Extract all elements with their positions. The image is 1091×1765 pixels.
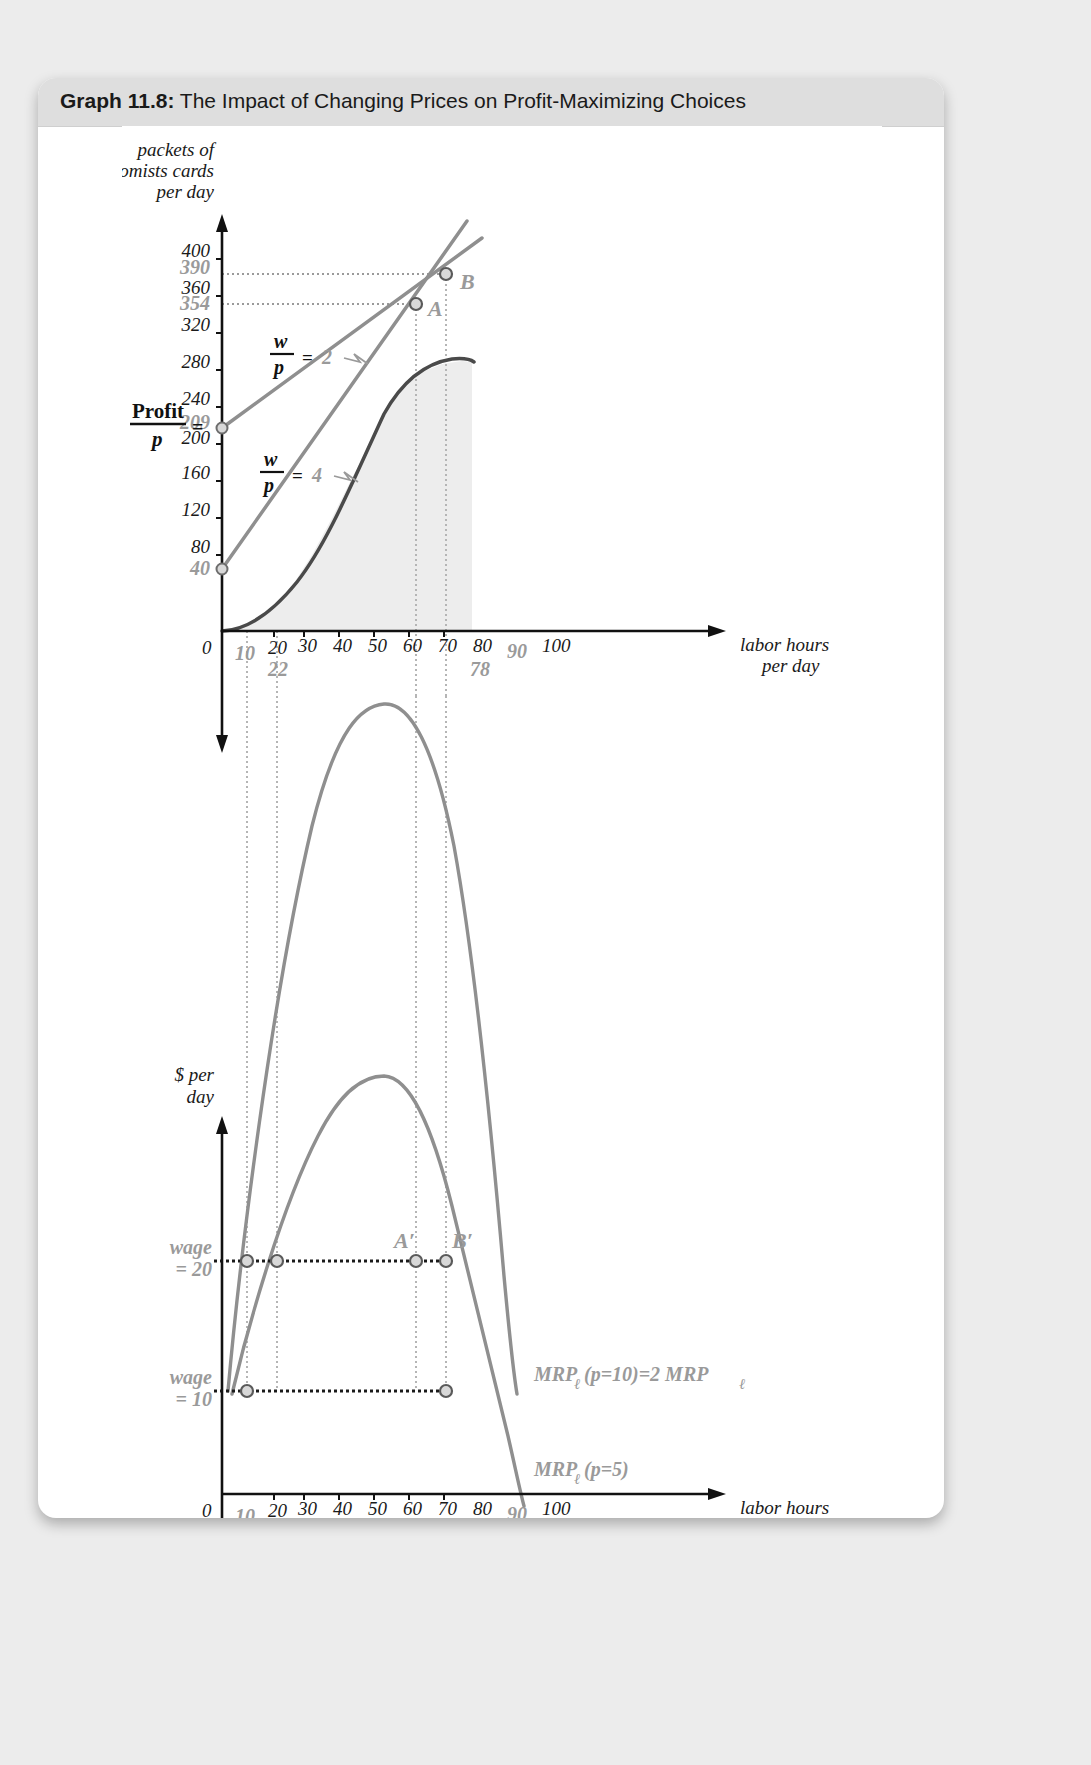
top-y-axis-title-line3: per day bbox=[154, 181, 214, 202]
ylabel-320: 320 bbox=[181, 314, 211, 335]
intercept-marker-40 bbox=[217, 564, 228, 575]
mrp-marker-p5-at-wage20-left bbox=[241, 1255, 253, 1267]
bottom-xlabel-80: 80 bbox=[473, 1498, 493, 1518]
point-marker-B bbox=[440, 268, 452, 280]
ylabel-40: 40 bbox=[189, 557, 210, 579]
bottom-xlabel-20: 20 bbox=[268, 1500, 288, 1518]
mrp-p5-head: MRP bbox=[533, 1458, 578, 1480]
mrp-marker-p10-at-wage20-left bbox=[271, 1255, 283, 1267]
wp2-pointer-arrow bbox=[344, 354, 368, 364]
top-xlabel-70: 70 bbox=[438, 635, 458, 656]
bottom-xlabel-50: 50 bbox=[368, 1498, 388, 1518]
wp4-denominator: p bbox=[262, 474, 274, 497]
wage-20-label-line1: wage bbox=[170, 1236, 212, 1259]
bottom-x-axis-arrow bbox=[708, 1488, 726, 1500]
ylabel-354: 354 bbox=[179, 292, 210, 314]
bottom-xlabel-70: 70 bbox=[438, 1498, 458, 1518]
bottom-xlabel-40: 40 bbox=[333, 1498, 353, 1518]
top-y-axis-title-line2: economists cards bbox=[122, 160, 214, 181]
wp2-equals: = bbox=[302, 347, 313, 368]
top-y-axis-arrow-up bbox=[216, 214, 228, 232]
point-label-B: B bbox=[459, 269, 475, 294]
isoprofit-label-wp4: w p = 4 bbox=[260, 448, 358, 497]
mrp-p10-head: MRP bbox=[533, 1363, 578, 1385]
bottom-xlabel-10: 10 bbox=[235, 1505, 255, 1518]
ylabel-280: 280 bbox=[182, 351, 211, 372]
mrp-marker-at-wage10-right bbox=[440, 1385, 452, 1397]
profit-denominator: p bbox=[150, 427, 163, 451]
bottom-y-axis-arrow bbox=[216, 1116, 228, 1134]
graph-title-text: The Impact of Changing Prices on Profit-… bbox=[174, 89, 746, 112]
top-y-axis-arrow-down bbox=[216, 735, 228, 753]
panel-connector-guides bbox=[247, 696, 446, 1391]
intercept-marker-209 bbox=[217, 423, 228, 434]
curve-label-mrp-p10: MRP ℓ (p=10)=2 MRP ℓ bbox=[533, 1363, 745, 1392]
top-xlabel-50: 50 bbox=[368, 635, 388, 656]
top-xlabel-80: 80 bbox=[473, 635, 493, 656]
point-marker-A-prime bbox=[410, 1255, 422, 1267]
page-background: Graph 11.8: The Impact of Changing Price… bbox=[0, 0, 1091, 1765]
top-xlabel-30: 30 bbox=[297, 635, 318, 656]
wp4-numerator: w bbox=[264, 448, 278, 470]
wp4-equals: = bbox=[292, 465, 303, 486]
point-label-A: A bbox=[426, 296, 443, 321]
mrp-p10-sub: ℓ bbox=[574, 1376, 580, 1392]
point-label-B-prime: B′ bbox=[451, 1228, 473, 1253]
bottom-panel: $ per day labor hours per day wage = 20 … bbox=[170, 704, 829, 1518]
bottom-y-axis-title-line2: day bbox=[187, 1086, 215, 1107]
ylabel-160: 160 bbox=[182, 462, 211, 483]
top-y-axis-title-line1: packets of bbox=[135, 139, 216, 160]
top-xlabel-40: 40 bbox=[333, 635, 353, 656]
ylabel-390: 390 bbox=[179, 256, 210, 278]
mrp-p10-tail: (p=10)=2 MRP bbox=[584, 1363, 709, 1386]
graph-number: Graph 11.8: bbox=[60, 89, 174, 112]
ylabel-80: 80 bbox=[191, 536, 211, 557]
profit-equals: = bbox=[192, 416, 203, 438]
top-panel: packets of economists cards per day labo… bbox=[122, 139, 829, 753]
ylabel-120: 120 bbox=[182, 499, 211, 520]
bottom-xlabel-90: 90 bbox=[507, 1503, 527, 1518]
mrp-curve-p5 bbox=[232, 1076, 524, 1506]
top-xlabel-20: 20 bbox=[268, 637, 288, 658]
figure-card: Graph 11.8: The Impact of Changing Price… bbox=[38, 78, 944, 1518]
bottom-xlabel-0: 0 bbox=[202, 1500, 212, 1518]
bottom-x-axis-title-line1: labor hours bbox=[740, 1497, 829, 1518]
top-xlabel-90: 90 bbox=[507, 640, 527, 662]
bottom-xlabel-100: 100 bbox=[542, 1498, 571, 1518]
bottom-xlabel-30: 30 bbox=[297, 1498, 318, 1518]
wp2-numerator: w bbox=[274, 330, 288, 352]
profit-numerator: Profit bbox=[132, 399, 184, 423]
wp2-value: 2 bbox=[321, 346, 332, 368]
figure-header: Graph 11.8: The Impact of Changing Price… bbox=[38, 78, 944, 127]
top-xlabel-22: 22 bbox=[267, 658, 288, 680]
bottom-y-axis-title-line1: $ per bbox=[174, 1064, 214, 1085]
bottom-xlabel-60: 60 bbox=[403, 1498, 423, 1518]
top-xlabel-78: 78 bbox=[470, 658, 490, 680]
ylabel-240: 240 bbox=[182, 388, 211, 409]
mrp-p5-tail: (p=5) bbox=[584, 1458, 629, 1481]
top-xlabel-60: 60 bbox=[403, 635, 423, 656]
top-x-axis-title-line2: per day bbox=[760, 655, 820, 676]
isoprofit-label-wp2: w p = 2 bbox=[270, 330, 368, 379]
top-x-axis-title-line1: labor hours bbox=[740, 634, 829, 655]
top-xlabel-0: 0 bbox=[202, 637, 212, 658]
point-marker-B-prime bbox=[440, 1255, 452, 1267]
figure-canvas: packets of economists cards per day labo… bbox=[122, 126, 882, 1518]
wage-10-label-line2: = 10 bbox=[176, 1388, 212, 1410]
top-x-axis-arrow bbox=[708, 625, 726, 637]
wp4-value: 4 bbox=[311, 464, 322, 486]
point-marker-A bbox=[410, 298, 422, 310]
mrp-p10-sub2: ℓ bbox=[739, 1376, 745, 1392]
top-xlabel-100: 100 bbox=[542, 635, 571, 656]
wage-20-label-line2: = 20 bbox=[176, 1258, 212, 1280]
wp2-denominator: p bbox=[272, 356, 284, 379]
point-label-A-prime: A′ bbox=[392, 1228, 415, 1253]
mrp-marker-at-wage10-left bbox=[241, 1385, 253, 1397]
curve-label-mrp-p5: MRP ℓ (p=5) bbox=[533, 1458, 629, 1487]
mrp-p5-sub: ℓ bbox=[574, 1471, 580, 1487]
top-xlabel-10: 10 bbox=[235, 642, 255, 664]
page-title: Graph 11.8: The Impact of Changing Price… bbox=[60, 89, 746, 113]
wage-10-label-line1: wage bbox=[170, 1366, 212, 1389]
